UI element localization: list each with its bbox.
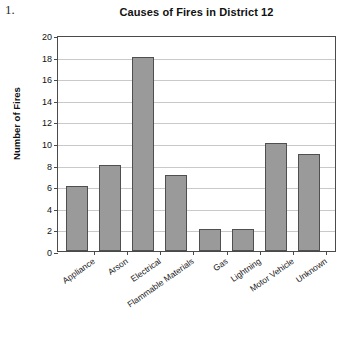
y-tick-mark (54, 80, 58, 81)
bar-gas (199, 229, 221, 251)
y-tick-label: 4 (47, 205, 52, 215)
x-tick-mark (326, 251, 327, 255)
x-tick-mark (160, 251, 161, 255)
x-tick-mark (293, 251, 294, 255)
y-tick-label: 10 (42, 140, 52, 150)
bar-lightning (232, 229, 254, 251)
y-tick-label: 20 (42, 32, 52, 42)
y-tick-label: 16 (42, 75, 52, 85)
x-tick-mark (260, 251, 261, 255)
y-tick-label: 0 (47, 248, 52, 258)
y-tick-mark (54, 167, 58, 168)
x-tick-label: Gas (211, 256, 230, 273)
x-tick-label: Unknown (294, 256, 329, 285)
y-tick-label: 14 (42, 97, 52, 107)
x-tick-label: Arson (106, 256, 130, 277)
y-tick-label: 6 (47, 183, 52, 193)
y-tick-label: 18 (42, 54, 52, 64)
gridline (58, 145, 335, 146)
item-number: 1. (5, 2, 15, 18)
x-tick-label: Appliance (60, 256, 96, 286)
bar-unknown (298, 154, 320, 251)
x-axis-labels: ApplianceArsonElectricalFlammable Materi… (57, 256, 336, 346)
gridline (58, 59, 335, 60)
bar-motor-vehicle (265, 143, 287, 251)
gridline (58, 102, 335, 103)
y-tick-mark (54, 37, 58, 38)
y-tick-label: 12 (42, 118, 52, 128)
y-tick-mark (54, 253, 58, 254)
x-tick-mark (227, 251, 228, 255)
chart-title: Causes of Fires in District 12 (57, 6, 336, 18)
y-tick-mark (54, 210, 58, 211)
y-tick-mark (54, 145, 58, 146)
y-axis-label: Number of Fires (11, 84, 22, 164)
bar-electrical (132, 57, 154, 251)
gridline (58, 80, 335, 81)
bar-arson (99, 165, 121, 251)
y-tick-mark (54, 102, 58, 103)
gridline (58, 123, 335, 124)
y-tick-mark (54, 188, 58, 189)
plot-area: 02468101214161820 (57, 36, 336, 252)
y-tick-label: 2 (47, 226, 52, 236)
x-tick-mark (127, 251, 128, 255)
x-tick-mark (193, 251, 194, 255)
y-tick-mark (54, 59, 58, 60)
y-tick-mark (54, 231, 58, 232)
x-tick-mark (94, 251, 95, 255)
bar-flammable-materials (165, 175, 187, 251)
bar-appliance (66, 186, 88, 251)
y-tick-label: 8 (47, 162, 52, 172)
y-tick-mark (54, 123, 58, 124)
